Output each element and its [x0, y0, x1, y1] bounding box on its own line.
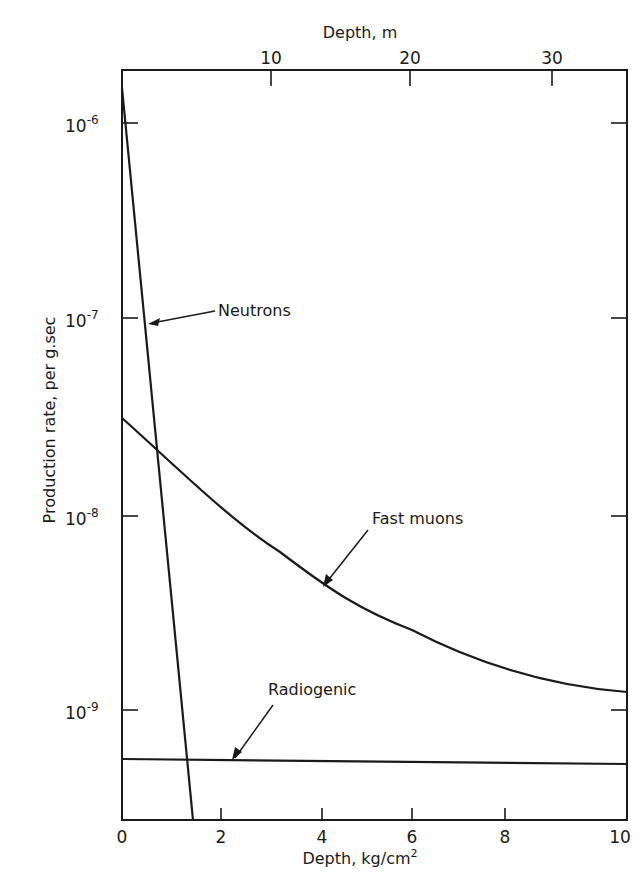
left-tick-label: 10-9	[65, 700, 99, 723]
bottom-axis-title: Depth, kg/cm2	[302, 847, 417, 868]
fast-muons-annotation: Fast muons	[323, 509, 463, 587]
right-axis-ticks	[611, 123, 627, 710]
left-tick-label: 10-8	[65, 506, 99, 529]
left-tick-label: 10-6	[65, 113, 99, 136]
top-tick-label: 30	[541, 48, 563, 68]
arrowhead-icon	[148, 318, 160, 326]
bottom-tick-label: 0	[117, 827, 128, 847]
left-axis-ticks: 10-6 10-7 10-8 10-9	[65, 113, 138, 723]
neutrons-annotation: Neutrons	[148, 301, 291, 326]
bottom-tick-label: 2	[216, 827, 227, 847]
top-axis-ticks: 10 20 30	[260, 48, 563, 86]
bottom-tick-label: 10	[609, 827, 631, 847]
bottom-tick-label: 6	[407, 827, 418, 847]
svg-text:Radiogenic: Radiogenic	[268, 680, 356, 699]
left-axis-title: Production rate, per g.sec	[40, 317, 59, 524]
top-tick-label: 20	[399, 48, 421, 68]
svg-text:Neutrons: Neutrons	[218, 301, 291, 320]
top-axis-title: Depth, m	[323, 23, 398, 42]
bottom-axis-ticks: 0 2 4 6 8 10	[117, 808, 631, 847]
chart: Depth, m 10 20 30 0 2 4 6 8 10 Depth, kg…	[0, 0, 643, 881]
radiogenic-curve	[122, 759, 627, 764]
fast-muons-curve	[122, 418, 627, 692]
bottom-tick-label: 4	[317, 827, 328, 847]
left-tick-label: 10-7	[65, 308, 99, 331]
plot-frame	[122, 70, 627, 820]
radiogenic-annotation: Radiogenic	[232, 680, 356, 760]
svg-text:Fast muons: Fast muons	[372, 509, 463, 528]
top-tick-label: 10	[260, 48, 282, 68]
arrowhead-icon	[232, 747, 242, 760]
bottom-tick-label: 8	[500, 827, 511, 847]
